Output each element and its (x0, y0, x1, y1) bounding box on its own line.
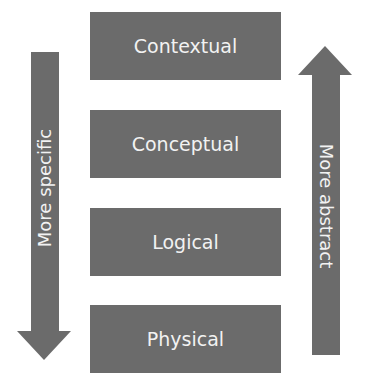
level-label: Conceptual (132, 133, 240, 155)
level-label: Contextual (134, 35, 237, 57)
level-box-conceptual: Conceptual (90, 110, 281, 178)
level-box-physical: Physical (90, 305, 281, 373)
more-specific-label: More specific (33, 116, 57, 260)
level-label: Physical (147, 328, 224, 350)
level-box-logical: Logical (90, 208, 281, 276)
level-box-contextual: Contextual (90, 12, 281, 80)
more-abstract-label: More abstract (314, 134, 338, 278)
level-label: Logical (152, 231, 219, 253)
